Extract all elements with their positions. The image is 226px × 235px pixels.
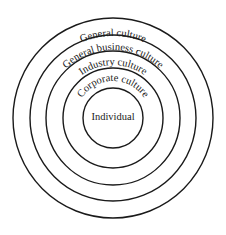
label-individual: Individual bbox=[91, 111, 134, 122]
culture-layers-diagram: General culture General business culture… bbox=[0, 0, 226, 235]
